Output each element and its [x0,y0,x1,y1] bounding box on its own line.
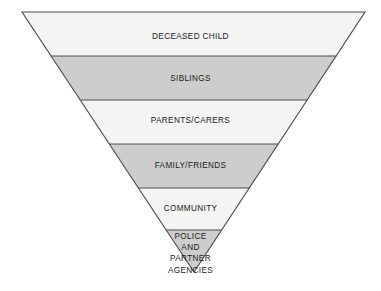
funnel-band-shapes [23,12,366,272]
funnel-band-deceased-child [23,12,366,56]
funnel-band-siblings [52,56,337,100]
funnel-band-community [139,188,250,230]
funnel-band-parents-carers [81,100,308,144]
funnel-shape [0,0,381,291]
inverted-triangle-diagram: DECEASED CHILDSIBLINGSPARENTS/CARERSFAMI… [0,0,381,291]
funnel-band-police-and-partner-agencies [166,230,221,272]
